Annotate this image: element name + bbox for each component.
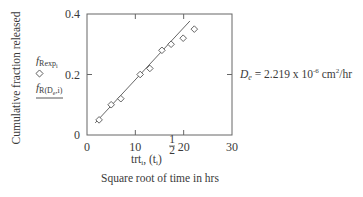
exponent-denominator: 2 (169, 144, 175, 156)
legend-entry-model: fR(De,i) (36, 81, 63, 96)
data-point (191, 26, 198, 33)
x-tick-label: 10 (129, 140, 141, 154)
data-point (118, 95, 125, 102)
x-axis-title-exponent: 1 2 (169, 133, 175, 156)
legend: fRexpi fR(De,i) (36, 54, 63, 98)
series (95, 21, 197, 123)
chart: 010203000.20.4 Cumulative fraction relea… (0, 0, 363, 197)
y-axis-title: Cumulative fraction released (10, 11, 22, 144)
y-tick-label: 0 (74, 128, 80, 142)
y-tick-label: 0.4 (65, 7, 80, 21)
x-axis-title-symbol: trti, (ti) (131, 153, 162, 167)
fit-line (95, 21, 190, 123)
x-tick-label: 0 (84, 140, 90, 154)
legend-entry-experimental: fRexpi (36, 54, 58, 69)
plot-frame-rect (87, 14, 232, 135)
data-point (108, 101, 115, 108)
x-tick-label: 20 (178, 140, 190, 154)
plot-frame (87, 14, 232, 135)
data-point (168, 41, 175, 48)
diffusion-coefficient-annotation: De = 2.219 x 10-6 cm2/hr (239, 67, 352, 82)
data-point (96, 117, 103, 124)
data-point (180, 35, 187, 42)
axis-ticks (87, 14, 232, 135)
x-axis-title: Square root of time in hrs (101, 172, 219, 185)
y-tick-label: 0.2 (65, 68, 80, 82)
x-tick-label: 30 (226, 140, 238, 154)
tick-labels: 010203000.20.4 (65, 7, 238, 154)
legend-diamond-marker (36, 70, 43, 77)
